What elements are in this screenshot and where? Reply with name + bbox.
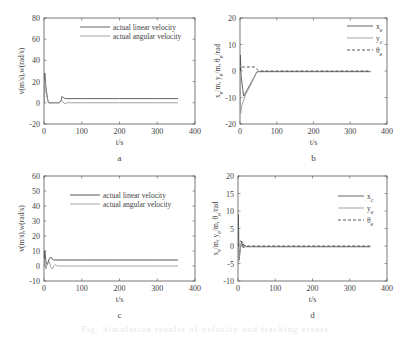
series-line [240, 71, 371, 113]
y-tick-label: 20 [226, 172, 234, 181]
series-line [44, 80, 178, 104]
x-tick-label: 300 [151, 284, 163, 293]
y-tick-label: 0 [36, 262, 40, 271]
x-tick-label: 0 [42, 127, 46, 136]
x-tick-label: 200 [114, 284, 126, 293]
series-line [44, 251, 178, 266]
y-tick-label: -10 [29, 277, 40, 286]
chart-panel-c: 0100200300400-100102030405060t/sv(m/s),w… [17, 172, 201, 320]
legend-entry: ye [367, 204, 374, 215]
x-axis-label: t/s [116, 138, 124, 147]
series-line [238, 241, 370, 246]
x-tick-label: 200 [307, 284, 319, 293]
y-tick-label: 60 [32, 35, 40, 44]
y-tick-label: -5 [227, 260, 234, 269]
x-tick-label: 100 [269, 284, 281, 293]
x-tick-label: 200 [114, 127, 126, 136]
x-tick-label: 300 [344, 127, 356, 136]
legend: xcyeθe [338, 192, 374, 227]
legend-entry: actual angular velocity [113, 32, 182, 41]
x-tick-label: 100 [271, 127, 283, 136]
series-line [238, 242, 370, 262]
legend-entry: yc [376, 34, 383, 45]
y-tick-label: -10 [225, 94, 236, 103]
y-tick-label: -10 [223, 277, 234, 286]
y-tick-label: 10 [228, 41, 236, 50]
legend-entry: θe [367, 216, 374, 227]
panel-label: d [310, 310, 315, 320]
legend-entry: xe [376, 22, 383, 33]
x-tick-label: 400 [381, 284, 393, 293]
y-tick-label: 20 [228, 14, 236, 23]
y-tick-label: 10 [226, 207, 234, 216]
y-tick-label: 40 [32, 56, 40, 65]
panel-label: c [118, 310, 122, 320]
x-axis-label: t/s [116, 295, 124, 304]
legend: xeycθe [347, 22, 383, 57]
x-tick-label: 100 [76, 284, 88, 293]
chart-panel-a: 0100200300400-20020406080t/sv(m/s),w(rad… [17, 14, 201, 163]
y-tick-label: 20 [32, 232, 40, 241]
legend-entry: actual linear velocity [113, 23, 176, 32]
x-tick-label: 400 [189, 127, 201, 136]
panel-label: a [118, 153, 122, 163]
x-tick-label: 0 [42, 284, 46, 293]
y-tick-label: 60 [32, 172, 40, 181]
y-tick-label: 5 [230, 225, 234, 234]
legend: actual linear velocityactual angular vel… [80, 23, 182, 41]
series-line [240, 55, 371, 96]
y-tick-label: 80 [32, 14, 40, 23]
y-tick-label: 15 [226, 190, 234, 199]
y-tick-label: 20 [32, 78, 40, 87]
chart-panel-d: 0100200300400-10-505101520t/sxe/m, ye/m,… [211, 172, 393, 320]
series-line [240, 67, 371, 71]
x-axis-label: t/s [309, 295, 317, 304]
figure: 0100200300400-20020406080t/sv(m/s),w(rad… [0, 0, 410, 338]
y-tick-label: 40 [32, 202, 40, 211]
y-axis-label: xe/m, ye/m, θe/rad [213, 44, 224, 98]
figure-canvas: 0100200300400-20020406080t/sv(m/s),w(rad… [0, 0, 410, 338]
y-tick-label: 30 [32, 217, 40, 226]
y-tick-label: 50 [32, 187, 40, 196]
x-tick-label: 200 [308, 127, 320, 136]
x-tick-label: 0 [238, 127, 242, 136]
panel-label: b [311, 153, 316, 163]
chart-panel-b: 0100200300400-20-1001020t/sxe/m, ye/m, θ… [213, 14, 393, 163]
y-tick-label: -20 [29, 120, 40, 129]
y-tick-label: 10 [32, 247, 40, 256]
legend-entry: actual linear velocity [103, 191, 166, 200]
figure-caption: Fig. Simulation results of velocity and … [0, 324, 410, 334]
y-tick-label: 0 [230, 242, 234, 251]
x-axis-label: t/s [310, 138, 318, 147]
series-line [44, 73, 178, 103]
x-tick-label: 300 [344, 284, 356, 293]
x-tick-label: 400 [381, 127, 393, 136]
y-tick-label: 0 [232, 67, 236, 76]
x-tick-label: 300 [151, 127, 163, 136]
x-tick-label: 100 [76, 127, 88, 136]
legend-entry: θe [376, 46, 383, 57]
y-axis-label: xe/m, ye/m, θe/rad [211, 201, 222, 255]
y-tick-label: 0 [36, 99, 40, 108]
x-tick-label: 400 [189, 284, 201, 293]
legend: actual linear velocityactual angular vel… [70, 191, 172, 209]
y-axis-label: v(m/s),w(rad/s) [17, 47, 26, 94]
y-tick-label: -20 [225, 120, 236, 129]
plot-frame [238, 176, 387, 281]
legend-entry: xc [367, 192, 374, 203]
y-axis-label: v(m/s),w(rad/s) [17, 205, 26, 252]
series-line [238, 215, 370, 261]
legend-entry: actual angular velocity [103, 200, 172, 209]
x-tick-label: 0 [236, 284, 240, 293]
